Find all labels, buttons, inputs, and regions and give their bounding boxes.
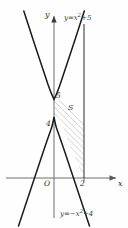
equation-label-upper-parabola: y=x2+5 [64, 13, 91, 22]
y-tick-label-5: 5 [56, 92, 61, 100]
equation-lower-tail: +4 [83, 210, 93, 218]
equation-lower-base: y=−x [60, 210, 80, 218]
y-axis-arrow [51, 16, 56, 23]
figure-canvas [0, 0, 128, 228]
region-label-s: S [68, 104, 73, 112]
y-axis-label: y [45, 11, 50, 19]
equation-label-lower-parabola: y=−x2+4 [60, 209, 93, 218]
math-figure: y x O 5 4 2 S y=x2+5 y=−x2+4 [0, 0, 128, 228]
y-tick-label-4: 4 [46, 120, 51, 128]
equation-upper-base: y=x [64, 14, 78, 22]
x-tick-label-2: 2 [80, 180, 85, 188]
origin-label: O [44, 180, 50, 188]
x-axis-arrow [110, 175, 117, 180]
x-axis-label: x [118, 180, 123, 188]
equation-upper-tail: +5 [81, 14, 91, 22]
